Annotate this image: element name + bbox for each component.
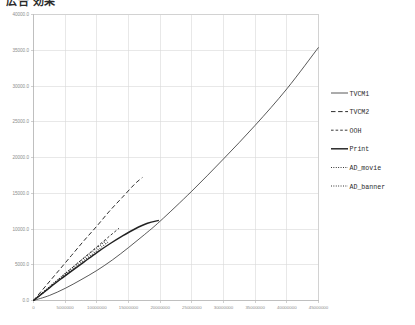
x-tick-label: 20000000 xyxy=(150,305,170,310)
legend-label-ooh: OOH xyxy=(350,128,362,135)
legend-label-ad_banner: AD_banner xyxy=(350,184,386,191)
x-tick-label: 5000000 xyxy=(57,305,75,310)
y-tick-label: 35000.0 xyxy=(12,48,29,53)
chart-root: 広告 効果 0.05000.010000.015000.020000.02500… xyxy=(0,0,415,325)
series-line-print xyxy=(34,220,159,300)
data-series-group xyxy=(34,47,319,300)
x-tick-label: 35000000 xyxy=(245,305,265,310)
y-tick-label: 15000.0 xyxy=(12,191,29,196)
series-line-tvcm1 xyxy=(34,47,319,300)
chart-legend: TVCM1TVCM2OOHPrintAD_movieAD_banner xyxy=(331,91,385,191)
y-gridlines xyxy=(34,15,319,265)
legend-label-ad_movie: AD_movie xyxy=(350,165,382,172)
x-tick-label: 40000000 xyxy=(277,305,297,310)
y-tick-label: 30000.0 xyxy=(12,84,29,89)
y-axis-tick-labels: 0.05000.010000.015000.020000.025000.0300… xyxy=(12,12,29,303)
y-tick-label: 25000.0 xyxy=(12,119,29,124)
x-axis-tick-labels: 0500000010000000150000002000000025000000… xyxy=(32,305,329,310)
x-tick-label: 30000000 xyxy=(214,305,234,310)
y-tick-label: 5000.0 xyxy=(15,262,29,267)
y-tick-label: 0.0 xyxy=(23,298,30,303)
legend-label-print: Print xyxy=(350,146,370,153)
x-tick-label: 25000000 xyxy=(182,305,202,310)
y-tick-marks xyxy=(31,15,34,301)
x-tick-label: 45000000 xyxy=(309,305,329,310)
legend-label-tvcm1: TVCM1 xyxy=(350,91,370,98)
y-tick-label: 20000.0 xyxy=(12,155,29,160)
x-tick-label: 15000000 xyxy=(119,305,139,310)
y-tick-label: 40000.0 xyxy=(12,12,29,17)
series-line-tvcm2 xyxy=(34,178,143,301)
x-tick-label: 0 xyxy=(32,305,35,310)
x-tick-label: 10000000 xyxy=(87,305,107,310)
legend-label-tvcm2: TVCM2 xyxy=(350,109,370,116)
chart-canvas: 0.05000.010000.015000.020000.025000.0300… xyxy=(0,0,415,325)
x-tick-marks xyxy=(34,301,319,304)
y-tick-label: 10000.0 xyxy=(12,227,29,232)
